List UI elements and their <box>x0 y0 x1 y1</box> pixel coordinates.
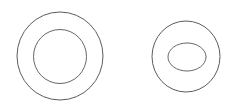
canvas-background <box>0 0 235 112</box>
drawing-canvas <box>0 0 235 112</box>
figure-svg <box>0 0 235 112</box>
